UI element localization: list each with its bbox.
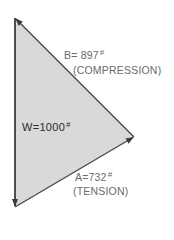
w-force-value: W=1000 bbox=[22, 121, 65, 133]
a-pound-mark: # bbox=[108, 170, 113, 179]
b-force-label: B= 897# bbox=[64, 49, 104, 61]
w-force-label: W=1000# bbox=[22, 121, 71, 133]
a-force-value: A=732 bbox=[75, 171, 107, 183]
w-pound-mark: # bbox=[66, 120, 71, 129]
a-force-label: A=732# bbox=[75, 171, 112, 183]
b-pound-mark: # bbox=[100, 48, 105, 57]
a-force-type: (TENSION) bbox=[73, 186, 128, 197]
b-force-type: (COMPRESSION) bbox=[73, 65, 161, 76]
b-force-value: B= 897 bbox=[64, 49, 99, 61]
